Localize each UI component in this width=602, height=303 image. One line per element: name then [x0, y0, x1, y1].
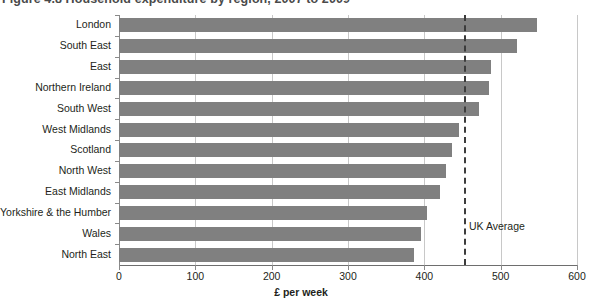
bar-south-west[interactable]: [119, 102, 479, 116]
y-axis-label-south-east: South East: [0, 39, 111, 51]
bar-yorkshire-the-humber[interactable]: [119, 206, 427, 220]
figure-title: Figure 4.8 Household expenditure by regi…: [2, 0, 350, 6]
y-tick-1: [115, 36, 119, 37]
y-tick-5: [115, 119, 119, 120]
y-axis-label-yorkshire-the-humber: Yorkshire & the Humber: [0, 206, 111, 218]
x-tick-label-400: 400: [416, 270, 434, 282]
y-tick-4: [115, 98, 119, 99]
y-axis-label-north-east: North East: [0, 248, 111, 260]
bar-west-midlands[interactable]: [119, 123, 459, 137]
x-tick-label-100: 100: [187, 270, 205, 282]
y-axis-label-east: East: [0, 60, 111, 72]
uk-average-label: UK Average: [469, 220, 525, 232]
x-tick-label-0: 0: [116, 270, 122, 282]
y-tick-8: [115, 182, 119, 183]
y-axis-label-south-west: South West: [0, 102, 111, 114]
y-tick-2: [115, 57, 119, 58]
x-axis-title: £ per week: [0, 286, 602, 298]
y-tick-9: [115, 203, 119, 204]
y-axis-label-north-west: North West: [0, 164, 111, 176]
y-tick-3: [115, 78, 119, 79]
bar-north-east[interactable]: [119, 248, 414, 262]
y-tick-11: [115, 244, 119, 245]
x-tick-label-600: 600: [568, 270, 586, 282]
y-tick-6: [115, 140, 119, 141]
bar-wales[interactable]: [119, 227, 421, 241]
figure-container: Figure 4.8 Household expenditure by regi…: [0, 0, 602, 303]
y-tick-7: [115, 161, 119, 162]
bar-northern-ireland[interactable]: [119, 81, 489, 95]
x-tick-label-300: 300: [339, 270, 357, 282]
x-tick-label-500: 500: [492, 270, 510, 282]
bar-london[interactable]: [119, 18, 537, 32]
x-tick-label-200: 200: [263, 270, 281, 282]
bar-north-west[interactable]: [119, 164, 446, 178]
bar-south-east[interactable]: [119, 39, 517, 53]
y-axis-label-east-midlands: East Midlands: [0, 185, 111, 197]
y-axis-label-scotland: Scotland: [0, 143, 111, 155]
uk-average-line: [464, 15, 466, 265]
bar-scotland[interactable]: [119, 143, 452, 157]
y-axis-label-west-midlands: West Midlands: [0, 123, 111, 135]
y-tick-0: [115, 15, 119, 16]
gridline-600: [577, 15, 578, 265]
bar-east-midlands[interactable]: [119, 185, 440, 199]
y-axis-label-northern-ireland: Northern Ireland: [0, 81, 111, 93]
y-axis-label-wales: Wales: [0, 227, 111, 239]
y-tick-10: [115, 223, 119, 224]
bar-east[interactable]: [119, 60, 491, 74]
y-axis-label-london: London: [0, 18, 111, 30]
